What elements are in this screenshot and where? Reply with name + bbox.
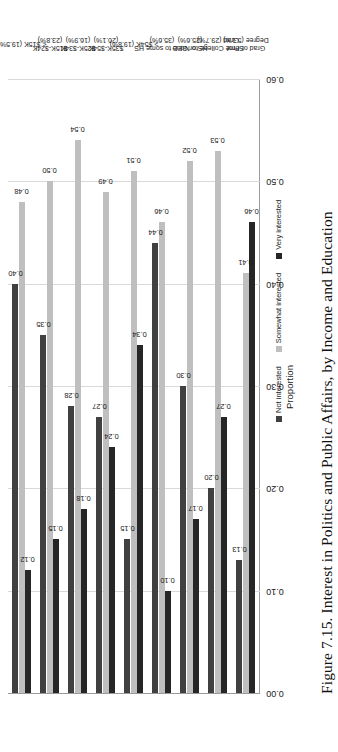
bar (124, 540, 130, 694)
bar-value-label: 0.27 (92, 402, 107, 411)
bar (193, 519, 199, 693)
legend-label: Not interested (274, 366, 283, 413)
bar (187, 161, 193, 693)
bar-value-label: 0.12 (21, 555, 36, 564)
bar-value-label: 0.49 (98, 177, 113, 186)
bar-value-label: 0.20 (204, 474, 219, 483)
legend-item: Not interested (274, 366, 283, 422)
bar (53, 540, 59, 694)
bar-value-label: 0.52 (182, 146, 197, 155)
y-axis-tick-label: 0.00 (266, 689, 284, 699)
bar (208, 488, 214, 693)
figure-caption: Figure 7.15. Interest in Politics and Pu… (318, 0, 336, 752)
legend-label: Somewhat interested (274, 273, 283, 343)
y-axis-tick-label: 0.60 (266, 75, 284, 85)
bar-value-label: 0.54 (70, 126, 85, 135)
bar (68, 406, 74, 693)
bar-value-label: 0.50 (42, 167, 57, 176)
bar-value-label: 0.53 (210, 136, 225, 145)
bar-value-label: 0.27 (217, 402, 232, 411)
bar-value-label: 0.10 (161, 576, 176, 585)
bar-value-label: 0.46 (154, 207, 169, 216)
bar-value-label: 0.24 (105, 433, 120, 442)
y-axis-tick-label: 0.50 (266, 177, 284, 187)
bar (159, 222, 165, 693)
bar-value-label: 0.17 (189, 504, 204, 513)
bar (25, 570, 31, 693)
bar-value-label: 0.15 (120, 525, 135, 534)
bar (221, 417, 227, 693)
bar (249, 222, 255, 693)
bar (243, 273, 249, 693)
legend-item: Somewhat interested (274, 273, 283, 352)
bar (75, 140, 81, 693)
bar-value-label: 0.44 (148, 228, 163, 237)
figure-container: Proportion 0.000.100.200.300.400.500.60 … (0, 0, 338, 752)
gridline (8, 79, 260, 80)
legend-swatch-not-interested (276, 416, 282, 422)
y-axis-tick-label: 0.20 (266, 484, 284, 494)
y-axis-line (8, 693, 260, 694)
bar (236, 560, 242, 693)
bar-value-label: 0.13 (232, 545, 247, 554)
bar (40, 335, 46, 693)
legend-item: Very interested (274, 200, 283, 259)
bar (47, 181, 53, 693)
bar (81, 509, 87, 693)
bar-value-label: 0.46 (245, 207, 260, 216)
y-axis-tick-label: 0.10 (266, 587, 284, 597)
bar (131, 171, 137, 693)
legend-label: Very interested (274, 200, 283, 250)
bar (137, 345, 143, 693)
bar-value-label: 0.48 (14, 187, 29, 196)
bar-value-label: 0.40 (8, 269, 23, 278)
bar (180, 386, 186, 693)
bar (109, 447, 115, 693)
bar (103, 192, 109, 693)
bar-value-label: 0.18 (77, 494, 92, 503)
bar-value-label: 0.30 (176, 371, 191, 380)
bar-value-label: 0.41 (238, 259, 253, 268)
bar (215, 151, 221, 693)
bar-value-label: 0.51 (126, 156, 141, 165)
chart-legend: Not interestedSomewhat interestedVery in… (274, 200, 283, 422)
bar-value-label: 0.35 (36, 320, 51, 329)
rotated-figure-wrapper: Proportion 0.000.100.200.300.400.500.60 … (0, 0, 338, 752)
bar (165, 591, 171, 693)
x-axis-line (259, 80, 260, 694)
bar-value-label: 0.34 (133, 330, 148, 339)
bar-value-label: 0.15 (49, 525, 64, 534)
bar (12, 284, 18, 693)
legend-swatch-somewhat-interested (276, 346, 282, 352)
category-label-slot: Grad or Prof Degree (5.1%) (216, 14, 276, 74)
bar (152, 243, 158, 693)
bar-value-label: 0.28 (64, 392, 79, 401)
category-label: Grad or Prof Degree (5.1%) (217, 36, 275, 53)
legend-swatch-very-interested (276, 253, 282, 259)
bar (96, 417, 102, 693)
y-axis-title: Proportion (284, 357, 295, 417)
figure-page: Proportion 0.000.100.200.300.400.500.60 … (0, 0, 338, 752)
